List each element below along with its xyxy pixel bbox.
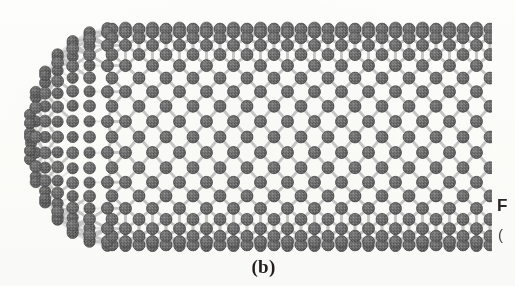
carbon-atom [295, 32, 307, 44]
carbon-atom [309, 236, 321, 248]
carbon-atom [84, 33, 96, 45]
carbon-atom [444, 147, 456, 159]
carbon-atom [349, 72, 361, 84]
carbon-atom [228, 176, 240, 188]
carbon-atom [106, 213, 118, 225]
carbon-atom [430, 131, 442, 143]
carbon-atom [241, 32, 253, 44]
carbon-atom [241, 131, 253, 143]
carbon-atom [484, 72, 496, 84]
figure-label-text: (b) [251, 254, 275, 280]
carbon-atom [147, 60, 159, 72]
carbon-atom [67, 219, 79, 231]
carbon-atom [484, 49, 496, 61]
carbon-atom [444, 223, 456, 235]
atomic-bond [490, 38, 504, 45]
carbon-atom [255, 39, 267, 51]
carbon-atom [309, 26, 321, 38]
carbon-atom [24, 118, 35, 129]
carbon-atom [52, 205, 64, 217]
carbon-atom [349, 190, 361, 202]
carbon-atom [84, 116, 95, 127]
carbon-atom [336, 39, 348, 51]
carbon-atom [67, 147, 79, 159]
carbon-atom [498, 116, 509, 127]
carbon-atom [255, 86, 267, 98]
carbon-atom [84, 229, 96, 241]
carbon-atom [67, 85, 79, 97]
carbon-atom [484, 131, 496, 143]
carbon-atom [349, 131, 361, 143]
carbon-atom [67, 177, 79, 189]
carbon-atom [174, 236, 186, 248]
carbon-atom [471, 39, 483, 51]
carbon-atom [174, 26, 186, 38]
carbon-atom [52, 75, 64, 87]
atomic-bond [490, 168, 504, 183]
atomic-bond [490, 38, 504, 45]
carbon-atom [201, 202, 213, 214]
carbon-atom [268, 162, 280, 174]
carbon-atom [160, 213, 172, 225]
atomic-bond [490, 66, 504, 78]
carbon-atom [201, 147, 213, 159]
carbon-atom [120, 115, 132, 127]
carbon-atom [498, 147, 509, 158]
carbon-atom [390, 39, 402, 51]
atomic-bond [490, 92, 504, 107]
carbon-atom [133, 213, 145, 225]
carbon-atom [133, 32, 145, 44]
carbon-atom [309, 223, 321, 235]
carbon-atom [336, 26, 348, 38]
carbon-atom [295, 49, 307, 61]
carbon-atom [201, 39, 213, 51]
carbon-atom [498, 40, 509, 51]
atomic-bond [490, 28, 504, 29]
carbon-atom [187, 32, 199, 44]
carbon-atom [282, 236, 294, 248]
carbon-atom [322, 230, 334, 242]
carbon-atom [187, 131, 199, 143]
carbon-atom [84, 49, 96, 61]
carbon-atom [268, 190, 280, 202]
carbon-atom [147, 39, 159, 51]
carbon-atom [471, 236, 483, 248]
carbon-atom [39, 175, 51, 187]
carbon-atom [498, 86, 510, 98]
carbon-atom [282, 39, 294, 51]
carbon-atom [403, 230, 415, 242]
carbon-atom [282, 202, 294, 214]
carbon-atom [201, 60, 213, 72]
atomic-bond [490, 32, 504, 37]
carbon-atom [498, 27, 509, 38]
carbon-atom [84, 177, 95, 188]
carbon-atom [187, 72, 199, 84]
carbon-atom [39, 115, 51, 127]
carbon-atom [403, 131, 415, 143]
carbon-atom [417, 115, 429, 127]
atomic-bond [490, 45, 504, 54]
carbon-atom [228, 86, 240, 98]
carbon-atom [457, 100, 469, 112]
carbon-atom [417, 26, 429, 38]
carbon-atom [241, 213, 253, 225]
carbon-atom [457, 49, 469, 61]
carbon-atom [268, 72, 280, 84]
carbon-atom [444, 60, 456, 72]
carbon-atom [363, 202, 375, 214]
carbon-atom [376, 131, 388, 143]
carbon-atom [160, 190, 172, 202]
atomic-bond [490, 29, 504, 32]
carbon-atom [147, 176, 159, 188]
carbon-atom [214, 49, 226, 61]
carbon-atom [67, 100, 78, 111]
carbon-atom [417, 86, 429, 98]
carbon-atom [336, 236, 348, 248]
carbon-atom [417, 147, 429, 159]
carbon-atom [282, 86, 294, 98]
carbon-atom [403, 100, 415, 112]
carbon-atom [101, 86, 113, 98]
carbon-atom [106, 72, 118, 84]
carbon-atom [349, 213, 361, 225]
atomic-bond [490, 38, 504, 45]
